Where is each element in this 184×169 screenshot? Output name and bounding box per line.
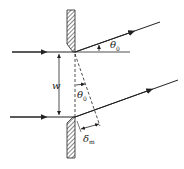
delta-extension-left [77,121,81,132]
diffraction-diagram: θ 0 w θ 0 δ m [0,0,184,169]
delta-subscript: m [89,138,95,145]
path-difference-dimension [81,124,99,129]
middle-angle-arc [76,84,85,85]
slit-width-label: w [52,80,61,91]
middle-theta-subscript: 0 [83,95,87,102]
upper-slit-barrier [67,10,75,52]
lower-slit-barrier [67,117,75,158]
upper-diffracted-arrow [75,32,132,52]
upper-theta-subscript: 0 [116,45,120,52]
